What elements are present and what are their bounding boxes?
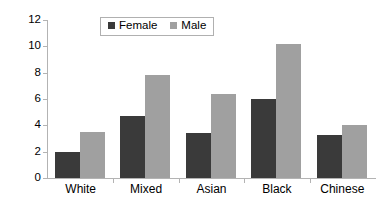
bar-group [244,20,309,178]
bar-female-white [55,152,80,178]
x-axis-tick [244,179,245,183]
legend-swatch-icon [108,22,115,29]
bar-female-asian [186,133,211,178]
x-axis-label-asian: Asian [176,183,248,196]
bar-male-mixed [145,75,170,178]
y-axis-tick-label: 0 [1,172,41,184]
legend-item-male[interactable]: Male [170,20,206,32]
bar-female-mixed [120,116,145,178]
y-axis-tick [43,99,48,100]
y-axis-tick-label: 6 [1,93,41,105]
x-axis-label-mixed: Mixed [110,183,182,196]
y-axis-tick-label: 2 [1,146,41,158]
bar-male-chinese [342,125,367,178]
bar-female-black [251,99,276,178]
bar-group [310,20,375,178]
y-axis-tick-label: 10 [1,40,41,52]
plot-area [48,20,375,178]
x-axis-label-black: Black [241,183,313,196]
bar-group [179,20,244,178]
x-axis-line [47,178,376,179]
y-axis: 024681012 [0,0,41,206]
x-axis-label-chinese: Chinese [306,183,378,196]
y-axis-tick [43,125,48,126]
bar-female-chinese [317,135,342,178]
legend-label: Male [181,20,206,32]
x-axis-tick [310,179,311,183]
y-axis-tick-label: 4 [1,119,41,131]
y-axis-tick-label: 8 [1,67,41,79]
y-axis-tick [43,20,48,21]
chart-legend: FemaleMale [100,17,214,36]
y-axis-tick [43,73,48,74]
y-axis-tick [43,178,48,179]
bar-male-white [80,132,105,178]
x-axis-label-white: White [45,183,117,196]
bar-group [113,20,178,178]
x-axis-tick [179,179,180,183]
legend-swatch-icon [170,22,177,29]
bar-male-asian [211,94,236,178]
y-axis-tick [43,46,48,47]
y-axis-tick [43,152,48,153]
x-axis-tick [113,179,114,183]
y-axis-tick-label: 12 [1,14,41,26]
bar-male-black [276,44,301,178]
bar-chart: 024681012 FemaleMale WhiteMixedAsianBlac… [0,0,385,206]
legend-item-female[interactable]: Female [108,20,157,32]
legend-label: Female [119,20,157,32]
bar-group [48,20,113,178]
